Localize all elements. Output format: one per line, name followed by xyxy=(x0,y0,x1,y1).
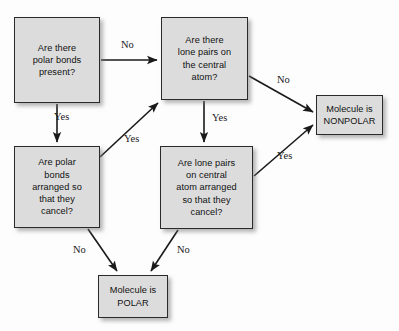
edge-lone-cancel-no xyxy=(151,230,178,271)
edge-lone-pairs-yes-label: Yes xyxy=(212,112,227,123)
edge-polar-bonds-yes-label: Yes xyxy=(54,111,69,122)
node-label: Are lone pairs on central atom arranged … xyxy=(172,157,240,218)
flowchart-canvas: Are there polar bonds present?Are there … xyxy=(0,0,399,331)
edge-bonds-cancel-no xyxy=(88,229,117,271)
node-label: Are there polar bonds present? xyxy=(29,42,86,79)
node-label: Are there lone pairs on the central atom… xyxy=(174,34,235,83)
node-polar-bonds-present[interactable]: Are there polar bonds present? xyxy=(14,17,100,103)
edge-bonds-cancel-yes-label: Yes xyxy=(124,133,139,144)
node-label: Molecule is NONPOLAR xyxy=(320,103,380,127)
edge-lone-pairs-no-label: No xyxy=(277,74,290,85)
node-molecule-nonpolar[interactable]: Molecule is NONPOLAR xyxy=(316,95,383,135)
node-label: Are polar bonds arranged so that they ca… xyxy=(28,156,86,217)
edge-lone-cancel-no-label: No xyxy=(177,244,190,255)
node-molecule-polar[interactable]: Molecule is POLAR xyxy=(98,275,168,318)
node-lone-pairs-cancel[interactable]: Are lone pairs on central atom arranged … xyxy=(160,146,253,229)
edge-bonds-cancel-no-label: No xyxy=(73,244,86,255)
edge-bonds-cancel-yes xyxy=(100,103,158,157)
node-lone-pairs-central-atom[interactable]: Are there lone pairs on the central atom… xyxy=(161,17,248,100)
edge-polar-bonds-no-label: No xyxy=(121,39,134,50)
node-polar-bonds-cancel[interactable]: Are polar bonds arranged so that they ca… xyxy=(14,146,100,228)
node-label: Molecule is POLAR xyxy=(106,284,161,308)
edge-lone-cancel-yes-label: Yes xyxy=(277,150,292,161)
